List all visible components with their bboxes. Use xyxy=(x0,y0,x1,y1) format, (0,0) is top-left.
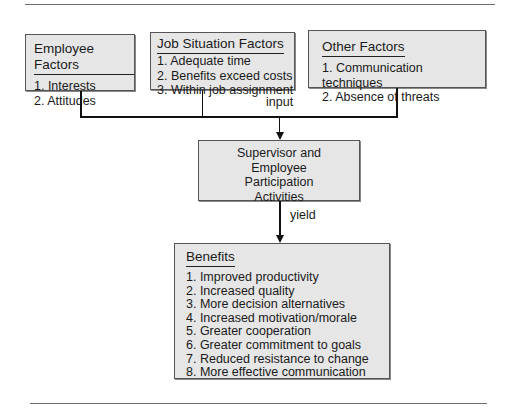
benefit-item: 8. More effective communication xyxy=(186,366,389,380)
benefit-item: 3. More decision alternatives xyxy=(186,298,389,312)
employee-factors-box: Employee Factors 1. Interests 2. Attitud… xyxy=(25,34,135,91)
benefit-item: 5. Greater cooperation xyxy=(186,325,389,339)
other-factor-item: 2. Absence of threats xyxy=(322,90,485,105)
job-situation-factor-item: 1. Adequate time xyxy=(157,54,294,69)
participation-line: Supervisor and xyxy=(199,146,359,161)
input-label: input xyxy=(266,95,293,109)
other-factors-box: Other Factors 1. Communication technique… xyxy=(308,30,486,88)
benefits-title: Benefits xyxy=(186,249,235,267)
job-situation-factors-box: Job Situation Factors 1. Adequate time 2… xyxy=(150,32,295,90)
benefit-item: 6. Greater commitment to goals xyxy=(186,339,389,353)
other-factor-item: 1. Communication techniques xyxy=(322,61,485,90)
job-situation-factors-title: Job Situation Factors xyxy=(157,36,284,54)
participation-activities-box: Supervisor and Employee Participation Ac… xyxy=(198,140,360,201)
employee-factor-item: 1. Interests xyxy=(34,79,134,94)
benefit-item: 2. Increased quality xyxy=(186,285,389,299)
benefit-item: 4. Increased motivation/morale xyxy=(186,312,389,326)
employee-factors-title: Employee Factors xyxy=(34,41,134,75)
bottom-rule xyxy=(30,403,487,404)
other-factors-title: Other Factors xyxy=(322,39,405,57)
connector-job xyxy=(202,90,203,117)
participation-line: Participation xyxy=(199,175,359,190)
participation-line: Employee xyxy=(199,161,359,176)
connector-employee xyxy=(80,91,82,118)
top-rule xyxy=(25,4,495,5)
connector-other xyxy=(396,88,398,117)
benefit-item: 7. Reduced resistance to change xyxy=(186,353,389,367)
job-situation-factor-item: 2. Benefits exceed costs xyxy=(157,69,294,84)
connector-down-2 xyxy=(279,201,281,237)
yield-label: yield xyxy=(290,208,316,222)
employee-factor-item: 2. Attitudes xyxy=(34,94,134,109)
arrow-down-icon xyxy=(276,132,284,140)
connector-horizontal xyxy=(80,116,398,118)
benefits-box: Benefits 1. Improved productivity 2. Inc… xyxy=(174,243,390,379)
arrow-down-icon xyxy=(276,235,284,243)
benefit-item: 1. Improved productivity xyxy=(186,271,389,285)
